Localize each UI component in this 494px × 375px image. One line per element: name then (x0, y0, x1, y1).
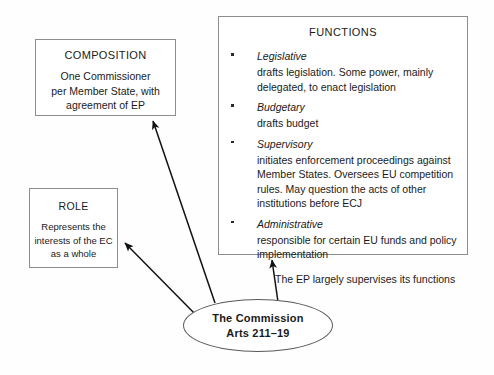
function-body: initiates enforcement proceedings agains… (257, 153, 457, 211)
arrow-to-role (125, 243, 197, 316)
composition-line-2: per Member State, with (36, 84, 175, 99)
function-item: Supervisory initiates enforcement procee… (229, 137, 457, 211)
role-title: ROLE (30, 200, 117, 212)
composition-title: COMPOSITION (36, 49, 175, 61)
function-item: Administrative responsible for certain E… (229, 217, 457, 262)
function-body: drafts legislation. Some power, mainly d… (257, 65, 457, 94)
function-heading: Budgetary (257, 100, 457, 115)
role-line-3: as a whole (30, 247, 117, 261)
bullet-icon (231, 53, 234, 56)
function-body: responsible for certain EU funds and pol… (257, 233, 457, 262)
bullet-icon (231, 221, 234, 224)
function-heading: Supervisory (257, 137, 457, 152)
function-item: Legislative drafts legislation. Some pow… (229, 49, 457, 94)
functions-footer: The EP largely supervises its functions (275, 272, 457, 287)
bullet-icon (231, 104, 234, 107)
role-box: ROLE Represents the interests of the EC … (29, 188, 118, 268)
function-heading: Legislative (257, 49, 457, 64)
function-body: drafts budget (257, 116, 457, 131)
diagram-canvas: COMPOSITION One Commissioner per Member … (0, 0, 494, 375)
functions-box: FUNCTIONS Legislative drafts legislation… (218, 16, 468, 255)
arrow-to-composition (153, 121, 215, 303)
functions-title: FUNCTIONS (229, 26, 457, 38)
function-heading: Administrative (257, 217, 457, 232)
role-line-1: Represents the (30, 220, 117, 234)
central-node-commission: The Commission Arts 211–19 (183, 299, 333, 352)
composition-line-3: agreement of EP (36, 98, 175, 113)
central-node-line-1: The Commission (212, 311, 303, 326)
role-line-2: interests of the EC (30, 234, 117, 248)
central-node-line-2: Arts 211–19 (226, 326, 289, 341)
composition-box: COMPOSITION One Commissioner per Member … (35, 39, 176, 116)
function-item: Budgetary drafts budget (229, 100, 457, 131)
bullet-icon (231, 141, 234, 144)
composition-line-1: One Commissioner (36, 69, 175, 84)
